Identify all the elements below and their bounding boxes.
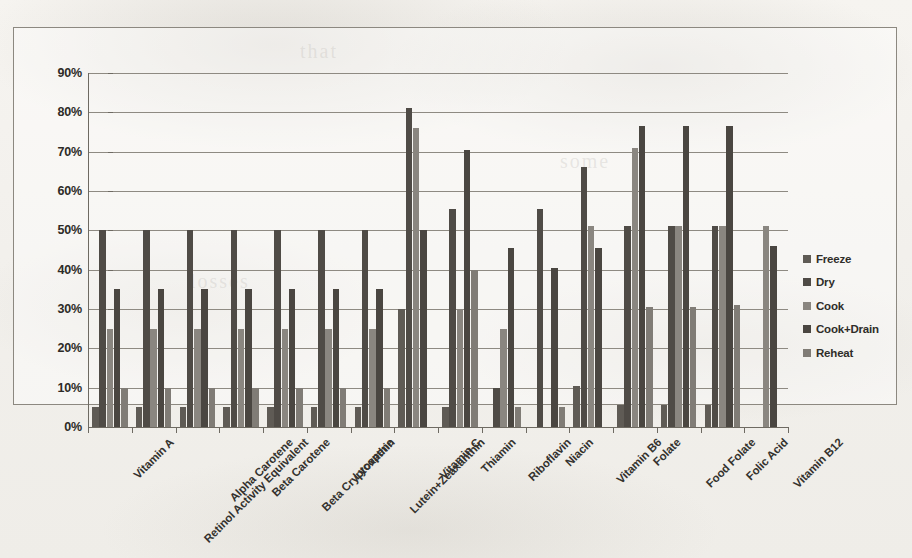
bar-group — [219, 73, 263, 427]
chart-frame: 0%10%20%30%40%50%60%70%80%90% Vitamin AR… — [13, 27, 897, 405]
bar — [143, 230, 149, 427]
bar — [515, 407, 521, 427]
bar — [573, 386, 579, 427]
bar — [537, 209, 543, 427]
legend-swatch-icon — [803, 302, 811, 310]
x-tick-label: Lycopene — [350, 436, 396, 482]
legend-label: Cook — [816, 300, 844, 312]
bar — [406, 108, 412, 427]
legend-item-reheat[interactable]: Reheat — [803, 341, 912, 365]
bar — [500, 329, 506, 427]
bar — [559, 407, 565, 427]
bar — [508, 248, 514, 427]
bar — [333, 289, 339, 427]
x-tick-mark — [438, 427, 439, 433]
y-tick-label-50%: 50% — [58, 223, 82, 237]
bar — [471, 270, 477, 427]
bar — [588, 226, 594, 427]
bar — [136, 407, 142, 427]
bar — [763, 226, 769, 427]
bar-group — [351, 73, 395, 427]
bar — [376, 289, 382, 427]
legend-item-cook[interactable]: Cook — [803, 294, 912, 318]
bars-layer — [88, 73, 788, 427]
legend-item-freeze[interactable]: Freeze — [803, 247, 912, 271]
bar — [92, 407, 98, 427]
x-tick-mark — [701, 427, 702, 433]
bar — [398, 309, 404, 427]
bar — [734, 305, 740, 427]
bar — [675, 226, 681, 427]
x-tick-label: Vitamin C — [437, 436, 482, 481]
bar — [668, 226, 674, 427]
bar — [719, 226, 725, 427]
y-tick-label-10%: 10% — [58, 381, 82, 395]
bar — [442, 407, 448, 427]
bar — [624, 226, 630, 427]
x-tick-label: Retinol Activity Equivalent — [201, 436, 310, 545]
bar — [384, 388, 390, 427]
x-tick-label: Food Folate — [703, 436, 757, 490]
bar-group — [307, 73, 351, 427]
legend-swatch-icon — [803, 255, 811, 263]
bar — [551, 268, 557, 427]
bar — [690, 307, 696, 427]
bar-group — [438, 73, 482, 427]
legend-swatch-icon — [803, 325, 811, 333]
bar — [223, 407, 229, 427]
y-tick-label-70%: 70% — [58, 145, 82, 159]
legend-item-dry[interactable]: Dry — [803, 271, 912, 295]
y-tick-label-30%: 30% — [58, 302, 82, 316]
x-tick-mark — [613, 427, 614, 433]
bar — [158, 289, 164, 427]
bar — [340, 388, 346, 427]
y-tick-label-0%: 0% — [64, 420, 82, 434]
bar — [683, 126, 689, 427]
bar — [726, 126, 732, 427]
bar — [165, 388, 171, 427]
legend-swatch-icon — [803, 278, 811, 286]
bar — [595, 248, 601, 427]
x-tick-mark — [88, 427, 89, 433]
y-axis-tick-labels: 0%10%20%30%40%50%60%70%80%90% — [38, 73, 82, 427]
bar-group — [263, 73, 307, 427]
bar-group — [394, 73, 438, 427]
x-axis-tick-labels: Vitamin ARetinol Activity EquivalentAlph… — [88, 436, 788, 558]
bar — [457, 309, 463, 427]
bar — [311, 407, 317, 427]
bar — [639, 126, 645, 427]
x-tick-mark — [482, 427, 483, 433]
bar-group — [482, 73, 526, 427]
x-tick-mark — [526, 427, 527, 433]
bar — [238, 329, 244, 427]
y-tick-label-20%: 20% — [58, 341, 82, 355]
bar — [449, 209, 455, 427]
legend-swatch-icon — [803, 349, 811, 357]
bar — [617, 405, 623, 427]
bar — [121, 388, 127, 427]
bar — [581, 167, 587, 427]
legend-item-cook-drain[interactable]: Cook+Drain — [803, 318, 912, 342]
x-tick-mark — [307, 427, 308, 433]
bar — [150, 329, 156, 427]
bar — [180, 407, 186, 427]
x-tick-mark — [351, 427, 352, 433]
bar — [194, 329, 200, 427]
bar — [99, 230, 105, 427]
bar — [661, 405, 667, 427]
x-tick-mark — [176, 427, 177, 433]
bar — [296, 388, 302, 427]
chart-legend: FreezeDryCookCook+DrainReheat — [803, 247, 912, 365]
bar — [318, 230, 324, 427]
x-tick-label: Alpha Carotene — [228, 436, 296, 504]
bar-group — [569, 73, 613, 427]
bar — [325, 329, 331, 427]
x-tick-label: Vitamin A — [131, 436, 176, 481]
bar — [114, 289, 120, 427]
bar — [267, 407, 273, 427]
bar — [413, 128, 419, 427]
bar-group — [701, 73, 745, 427]
bar — [493, 388, 499, 427]
bar — [770, 246, 776, 427]
bar — [289, 289, 295, 427]
